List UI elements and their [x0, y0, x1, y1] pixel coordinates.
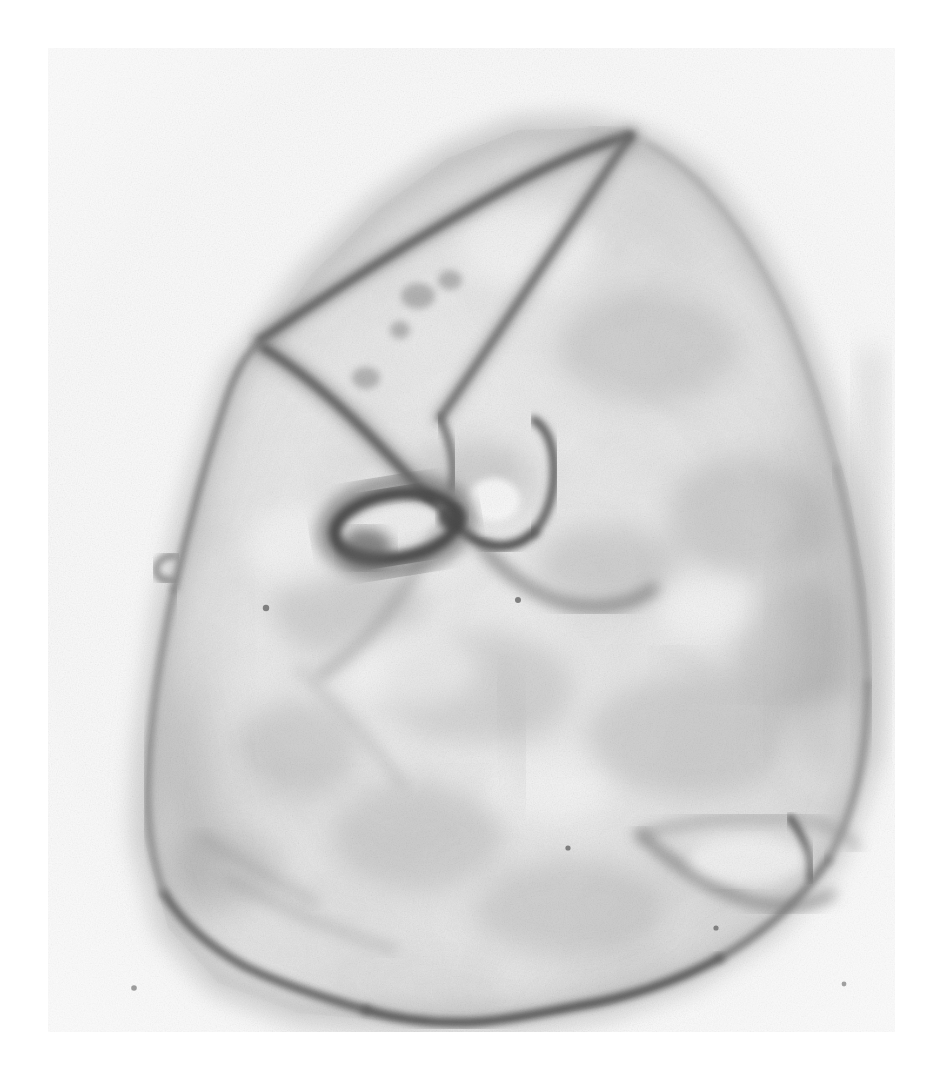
photomicrograph-figure: pollen grain light microscopy, transmitt…	[0, 0, 947, 1079]
microscopy-plate	[48, 48, 895, 1032]
right-edge-fade	[854, 348, 888, 768]
specimen-drawing	[48, 48, 895, 1032]
